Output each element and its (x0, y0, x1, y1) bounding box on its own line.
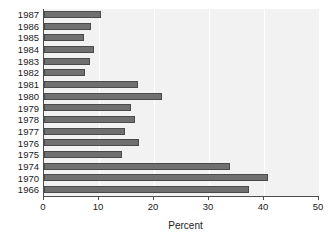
y-tick-label: 1976 (18, 138, 39, 150)
bar-series (44, 9, 319, 196)
x-tick-label: 30 (203, 201, 214, 212)
x-tick-label: 10 (93, 201, 104, 212)
bar-row[interactable] (44, 67, 319, 79)
x-tick-mark (153, 196, 154, 200)
x-tick-mark (98, 196, 99, 200)
bar-row[interactable] (44, 114, 319, 126)
bar-row[interactable] (44, 56, 319, 68)
y-tick-label: 1974 (18, 161, 39, 173)
y-tick-label: 1970 (18, 173, 39, 185)
x-tick-mark (43, 196, 44, 200)
bar[interactable] (44, 23, 91, 30)
bar-row[interactable] (44, 138, 319, 150)
bar[interactable] (44, 174, 268, 181)
bar[interactable] (44, 163, 230, 170)
x-tick-mark (263, 196, 264, 200)
y-tick-label: 1981 (18, 79, 39, 91)
y-tick-label: 1978 (18, 114, 39, 126)
y-tick-label: 1985 (18, 32, 39, 44)
y-axis-tick-labels: 1987198619851984198319821981198019791978… (0, 9, 41, 196)
bar-row[interactable] (44, 126, 319, 138)
bar[interactable] (44, 186, 249, 193)
gridline (319, 9, 320, 196)
bar[interactable] (44, 58, 90, 65)
y-tick-label: 1987 (18, 9, 39, 21)
x-axis-line (43, 196, 319, 197)
x-tick-mark (208, 196, 209, 200)
bar[interactable] (44, 128, 125, 135)
bar-row[interactable] (44, 103, 319, 115)
bar[interactable] (44, 11, 101, 18)
bar-row[interactable] (44, 161, 319, 173)
y-tick-label: 1983 (18, 56, 39, 68)
y-tick-label: 1966 (18, 184, 39, 196)
bar[interactable] (44, 104, 131, 111)
y-tick-label: 1984 (18, 44, 39, 56)
bar[interactable] (44, 139, 139, 146)
y-tick-label: 1977 (18, 126, 39, 138)
y-tick-label: 1982 (18, 67, 39, 79)
bar[interactable] (44, 93, 162, 100)
chart-figure: 1987198619851984198319821981198019791978… (0, 0, 329, 244)
bar[interactable] (44, 34, 84, 41)
bar[interactable] (44, 81, 138, 88)
bar-row[interactable] (44, 79, 319, 91)
bar-row[interactable] (44, 21, 319, 33)
x-tick-label: 20 (148, 201, 159, 212)
bar[interactable] (44, 116, 135, 123)
y-tick-label: 1980 (18, 91, 39, 103)
x-tick-mark (318, 196, 319, 200)
bar-row[interactable] (44, 32, 319, 44)
bar-row[interactable] (44, 9, 319, 21)
y-tick-label: 1986 (18, 21, 39, 33)
bar-row[interactable] (44, 149, 319, 161)
x-tick-label: 50 (313, 201, 324, 212)
plot-area (43, 9, 319, 196)
bar[interactable] (44, 46, 94, 53)
y-tick-label: 1979 (18, 103, 39, 115)
bar-row[interactable] (44, 173, 319, 185)
x-tick-label: 40 (258, 201, 269, 212)
bar[interactable] (44, 69, 85, 76)
bar-row[interactable] (44, 44, 319, 56)
x-tick-label: 0 (40, 201, 45, 212)
bar[interactable] (44, 151, 122, 158)
bar-row[interactable] (44, 91, 319, 103)
bar-row[interactable] (44, 184, 319, 196)
y-tick-label: 1975 (18, 149, 39, 161)
x-axis-title-label: Percent (168, 220, 202, 231)
x-axis-title: Percent (0, 220, 329, 231)
